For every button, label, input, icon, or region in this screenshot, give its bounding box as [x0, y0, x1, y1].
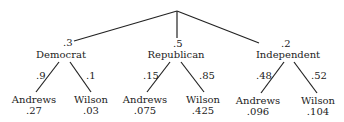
democrat-andrews-branch-prob: .9	[36, 70, 46, 81]
republican-wilson-branch-prob: .85	[199, 70, 215, 81]
probability-tree: .3 Democrat .5 Republican .2 Independent…	[0, 0, 344, 122]
independent-wilson-branch-prob: .52	[311, 70, 327, 81]
branch-root-democrat	[74, 11, 177, 41]
democrat-wilson-label: Wilson	[74, 94, 108, 105]
independent-wilson-label: Wilson	[301, 95, 335, 106]
independent-probability: .2	[281, 38, 291, 49]
independent-andrews-label: Andrews	[236, 95, 280, 106]
republican-probability: .5	[173, 38, 183, 49]
democrat-andrews-label: Andrews	[12, 94, 56, 105]
democrat-wilson-branch-prob: .1	[86, 70, 96, 81]
republican-andrews-branch-prob: .15	[143, 70, 159, 81]
democrat-andrews-joint-prob: .27	[26, 105, 42, 116]
democrat-label: Democrat	[36, 49, 86, 60]
republican-wilson-joint-prob: .425	[192, 105, 214, 116]
republican-wilson-label: Wilson	[186, 94, 220, 105]
republican-andrews-joint-prob: .075	[134, 105, 156, 116]
independent-label: Independent	[256, 49, 320, 60]
independent-andrews-branch-prob: .48	[256, 70, 272, 81]
democrat-probability: .3	[63, 37, 73, 48]
independent-andrews-joint-prob: .096	[247, 106, 269, 117]
republican-label: Republican	[147, 49, 204, 60]
branch-root-independent	[177, 11, 259, 43]
republican-andrews-label: Andrews	[123, 94, 167, 105]
independent-wilson-joint-prob: .104	[307, 106, 329, 117]
democrat-wilson-joint-prob: .03	[83, 105, 99, 116]
